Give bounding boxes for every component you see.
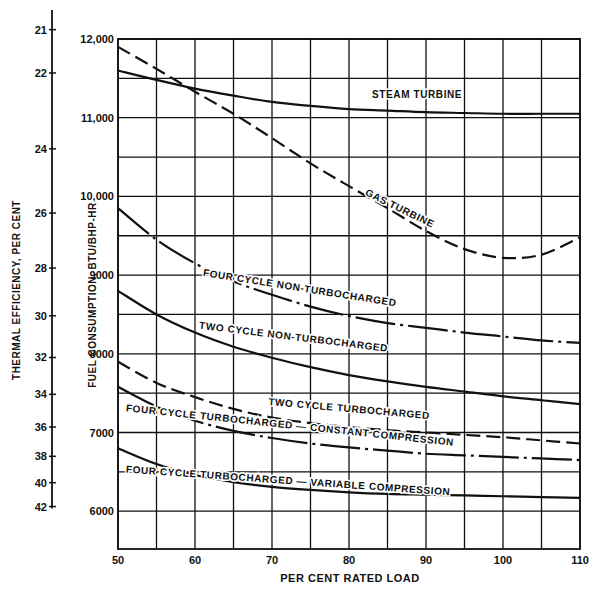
efficiency-tick-label: 24 xyxy=(35,143,48,155)
series-label: GAS TURBINE xyxy=(364,187,437,230)
x-tick-label: 100 xyxy=(494,554,512,566)
x-tick-label: 50 xyxy=(112,554,124,566)
efficiency-tick-label: 42 xyxy=(35,501,47,513)
x-tick-label: 80 xyxy=(343,554,355,566)
series-label: FOUR CYCLE NON-TURBOCHARGED xyxy=(202,267,397,308)
efficiency-tick-label: 28 xyxy=(35,262,47,274)
x-axis-label: PER CENT RATED LOAD xyxy=(280,572,419,584)
series-label: FOUR CYCLE TURBOCHARGED — VARIABLE COMPR… xyxy=(126,464,451,498)
x-tick-label: 60 xyxy=(189,554,201,566)
y-tick-label: 7000 xyxy=(90,427,114,439)
efficiency-tick-label: 32 xyxy=(35,351,47,363)
y-tick-label: 12,000 xyxy=(80,33,114,45)
efficiency-tick-label: 30 xyxy=(35,310,47,322)
x-tick-label: 110 xyxy=(571,554,589,566)
fuel-consumption-chart: 212224262830323436384042 600070008000900… xyxy=(0,0,600,591)
efficiency-tick-label: 26 xyxy=(35,207,47,219)
thermal-efficiency-axis: 212224262830323436384042 xyxy=(35,10,56,513)
efficiency-tick-label: 36 xyxy=(35,421,47,433)
y-axis-label: FUEL CONSUMPTION, BTU/BHP-HR xyxy=(87,202,98,388)
y-tick-label: 6000 xyxy=(90,505,114,517)
y-tick-label: 11,000 xyxy=(81,112,114,124)
y-tick-label: 10,000 xyxy=(80,190,114,202)
efficiency-tick-label: 21 xyxy=(35,24,47,36)
efficiency-tick-label: 38 xyxy=(35,450,47,462)
x-tick-label: 70 xyxy=(266,554,278,566)
series-label: TWO CYCLE NON-TURBOCHARGED xyxy=(199,320,389,354)
efficiency-tick-label: 40 xyxy=(35,477,47,489)
efficiency-tick-label: 34 xyxy=(35,388,48,400)
series-label: STEAM TURBINE xyxy=(372,89,462,100)
series-labels: STEAM TURBINEGAS TURBINEFOUR CYCLE NON-T… xyxy=(125,89,462,497)
secondary-y-axis-label: THERMAL EFFICIENCY, PER CENT xyxy=(11,200,22,380)
x-axis-ticks: 5060708090100110 xyxy=(112,554,589,566)
efficiency-tick-label: 22 xyxy=(35,67,47,79)
x-tick-label: 90 xyxy=(420,554,432,566)
